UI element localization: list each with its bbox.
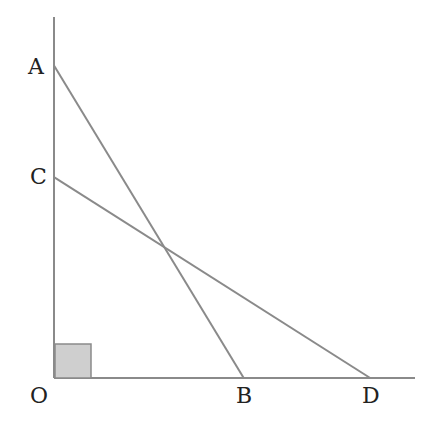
label-b: B <box>236 383 252 408</box>
label-c: C <box>30 164 47 189</box>
segment-cd <box>54 177 370 378</box>
right-angle-marker <box>55 344 91 378</box>
label-a: A <box>27 54 45 79</box>
label-o: O <box>30 383 48 408</box>
label-d: D <box>362 383 380 408</box>
segment-ab <box>54 66 244 378</box>
geometry-diagram: A C O B D <box>0 0 429 433</box>
